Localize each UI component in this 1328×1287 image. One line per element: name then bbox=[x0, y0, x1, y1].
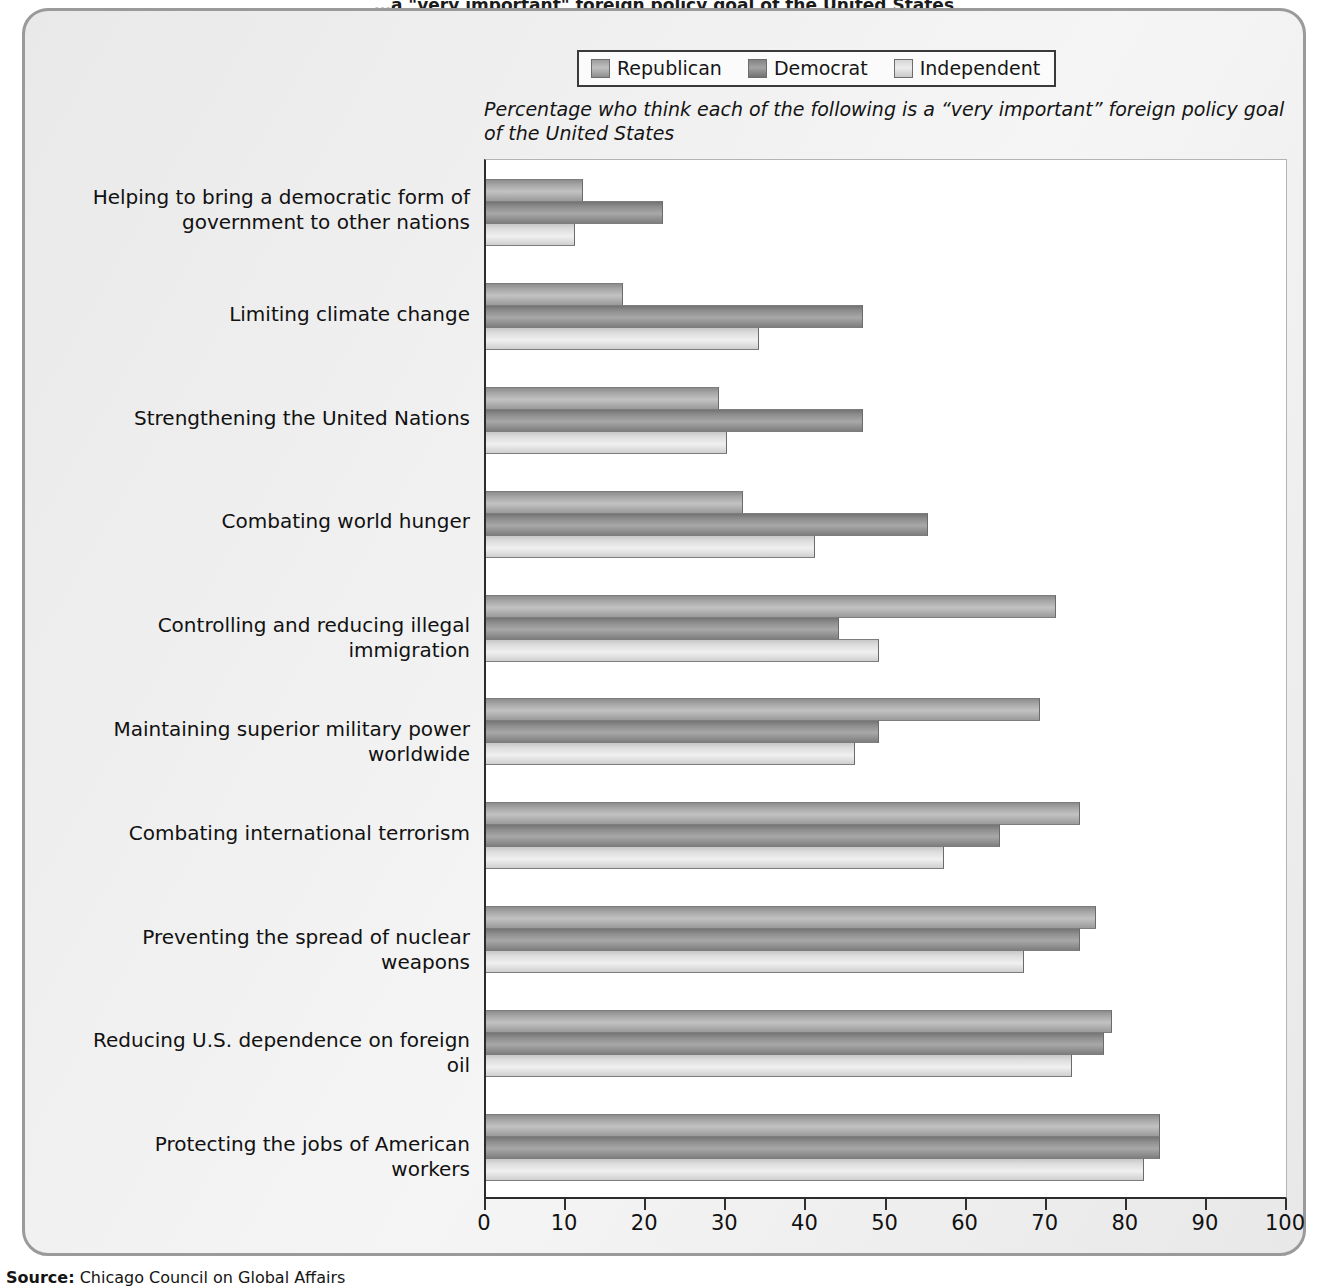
category-axis-labels: Helping to bring a democratic form of go… bbox=[75, 159, 470, 1199]
bar-democrat[interactable] bbox=[486, 201, 663, 224]
x-tick bbox=[484, 1199, 486, 1210]
plot-area bbox=[484, 159, 1287, 1199]
x-tick-label: 90 bbox=[1192, 1211, 1219, 1235]
bar-democrat[interactable] bbox=[486, 617, 839, 640]
bar-group bbox=[486, 1114, 1286, 1179]
bar-democrat[interactable] bbox=[486, 720, 879, 743]
republican-swatch bbox=[591, 59, 610, 78]
x-tick-label: 20 bbox=[631, 1211, 658, 1235]
bar-independent[interactable] bbox=[486, 535, 815, 558]
category-label: Limiting climate change bbox=[90, 302, 470, 327]
x-tick-label: 30 bbox=[711, 1211, 738, 1235]
x-tick-label: 100 bbox=[1265, 1211, 1305, 1235]
bar-democrat[interactable] bbox=[486, 409, 863, 432]
category-label: Maintaining superior military power worl… bbox=[90, 717, 470, 767]
bar-group bbox=[486, 698, 1286, 763]
category-label: Controlling and reducing illegal immigra… bbox=[90, 613, 470, 663]
bar-republican[interactable] bbox=[486, 1010, 1112, 1033]
bar-independent[interactable] bbox=[486, 950, 1024, 973]
bar-group bbox=[486, 906, 1286, 971]
x-tick bbox=[804, 1199, 806, 1210]
independent-swatch bbox=[894, 59, 913, 78]
legend-item-republican[interactable]: Republican bbox=[591, 57, 722, 79]
bar-independent[interactable] bbox=[486, 1158, 1144, 1181]
bar-democrat[interactable] bbox=[486, 305, 863, 328]
x-tick bbox=[885, 1199, 887, 1210]
legend-label-republican: Republican bbox=[617, 57, 722, 79]
bar-independent[interactable] bbox=[486, 223, 575, 246]
bar-independent[interactable] bbox=[486, 639, 879, 662]
bar-group bbox=[486, 802, 1286, 867]
bar-republican[interactable] bbox=[486, 906, 1096, 929]
x-tick-label: 40 bbox=[791, 1211, 818, 1235]
bar-independent[interactable] bbox=[486, 742, 855, 765]
bar-republican[interactable] bbox=[486, 283, 623, 306]
x-tick bbox=[1285, 1199, 1287, 1210]
category-label: Reducing U.S. dependence on foreign oil bbox=[90, 1028, 470, 1078]
chart-panel: Republican Democrat Independent Percenta… bbox=[22, 8, 1306, 1256]
x-tick bbox=[644, 1199, 646, 1210]
category-label: Protecting the jobs of American workers bbox=[90, 1132, 470, 1182]
bar-independent[interactable] bbox=[486, 431, 727, 454]
bar-republican[interactable] bbox=[486, 179, 583, 202]
bar-republican[interactable] bbox=[486, 387, 719, 410]
x-tick bbox=[965, 1199, 967, 1210]
bar-independent[interactable] bbox=[486, 1054, 1072, 1077]
legend-item-independent[interactable]: Independent bbox=[894, 57, 1040, 79]
bar-democrat[interactable] bbox=[486, 1032, 1104, 1055]
legend-item-democrat[interactable]: Democrat bbox=[748, 57, 868, 79]
legend-label-independent: Independent bbox=[920, 57, 1040, 79]
bar-group bbox=[486, 491, 1286, 556]
source-prefix: Source: bbox=[6, 1268, 75, 1287]
x-tick bbox=[1125, 1199, 1127, 1210]
category-label: Preventing the spread of nuclear weapons bbox=[90, 925, 470, 975]
bar-group bbox=[486, 595, 1286, 660]
bar-democrat[interactable] bbox=[486, 824, 1000, 847]
x-axis: 0102030405060708090100 bbox=[484, 1199, 1294, 1245]
bar-group bbox=[486, 179, 1286, 244]
x-tick-label: 60 bbox=[951, 1211, 978, 1235]
bar-republican[interactable] bbox=[486, 595, 1056, 618]
democrat-swatch bbox=[748, 59, 767, 78]
bar-republican[interactable] bbox=[486, 1114, 1160, 1137]
x-tick bbox=[724, 1199, 726, 1210]
x-tick-label: 10 bbox=[551, 1211, 578, 1235]
x-tick-label: 70 bbox=[1031, 1211, 1058, 1235]
bar-democrat[interactable] bbox=[486, 513, 928, 536]
x-tick-label: 50 bbox=[871, 1211, 898, 1235]
bar-independent[interactable] bbox=[486, 327, 759, 350]
bar-democrat[interactable] bbox=[486, 1136, 1160, 1159]
x-tick-label: 80 bbox=[1111, 1211, 1138, 1235]
category-label: Strengthening the United Nations bbox=[90, 406, 470, 431]
category-label: Combating world hunger bbox=[90, 509, 470, 534]
category-label: Combating international terrorism bbox=[90, 821, 470, 846]
bar-democrat[interactable] bbox=[486, 928, 1080, 951]
bar-republican[interactable] bbox=[486, 491, 743, 514]
x-tick bbox=[564, 1199, 566, 1210]
bar-republican[interactable] bbox=[486, 698, 1040, 721]
x-tick bbox=[1045, 1199, 1047, 1210]
bar-independent[interactable] bbox=[486, 846, 944, 869]
category-label: Helping to bring a democratic form of go… bbox=[90, 185, 470, 235]
x-tick bbox=[1205, 1199, 1207, 1210]
legend-label-democrat: Democrat bbox=[774, 57, 868, 79]
source-text: Chicago Council on Global Affairs bbox=[80, 1268, 346, 1287]
x-tick-label: 0 bbox=[477, 1211, 490, 1235]
chart-legend: Republican Democrat Independent bbox=[577, 50, 1056, 87]
bar-republican[interactable] bbox=[486, 802, 1080, 825]
bar-group bbox=[486, 283, 1286, 348]
chart-subtitle: Percentage who think each of the followi… bbox=[484, 97, 1289, 146]
bar-group bbox=[486, 1010, 1286, 1075]
bar-group bbox=[486, 387, 1286, 452]
source-note: Source: Chicago Council on Global Affair… bbox=[6, 1268, 345, 1287]
